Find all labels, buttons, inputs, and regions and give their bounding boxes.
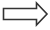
right-arrow-icon: [0, 0, 50, 30]
arrow-outline: [4, 3, 48, 25]
